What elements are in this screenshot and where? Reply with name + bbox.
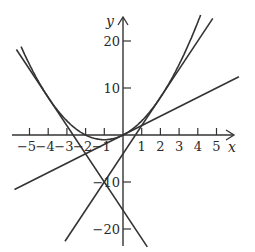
- y-tick-label: −10: [93, 175, 120, 190]
- x-tick-label: −1: [92, 139, 111, 154]
- x-tick-label: 1: [138, 139, 146, 154]
- y-tick-label: 20: [103, 34, 120, 49]
- x-tick-label: 2: [156, 139, 164, 154]
- chart-plot: −5−4−3−2−112345 2010−10−20 x y: [0, 0, 255, 252]
- series-tangent-line-2: [65, 18, 213, 241]
- x-tick-label: −4: [36, 139, 55, 154]
- y-tick-label: −20: [93, 222, 120, 237]
- x-tick-label: −5: [17, 139, 36, 154]
- x-tick-label: 3: [175, 139, 183, 154]
- x-tick-label: −3: [54, 139, 73, 154]
- x-ticks: −5−4−3−2−112345: [17, 128, 221, 154]
- y-tick-label: 10: [103, 81, 120, 96]
- x-tick-label: 4: [194, 139, 202, 154]
- x-axis-label: x: [228, 139, 236, 155]
- x-tick-label: −2: [73, 139, 92, 154]
- x-tick-label: 5: [212, 139, 220, 154]
- axes: [12, 17, 234, 246]
- y-axis-label: y: [105, 13, 115, 29]
